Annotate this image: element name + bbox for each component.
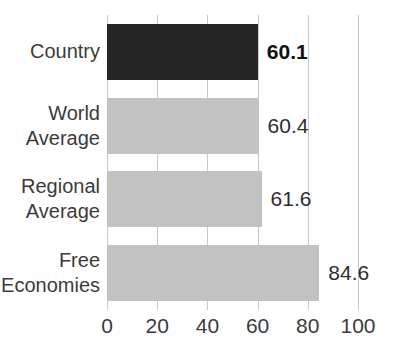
bar-value-labels: 60.160.461.684.6 <box>107 15 399 310</box>
x-tick-label: 40 <box>196 313 219 339</box>
category-label: World Average <box>0 101 100 151</box>
x-tick-label: 80 <box>296 313 319 339</box>
category-label: Country <box>0 39 100 64</box>
category-axis-labels: CountryWorld AverageRegional AverageFree… <box>0 15 100 310</box>
bar-value-label: 84.6 <box>328 262 369 283</box>
category-label: Free Economies <box>0 248 100 298</box>
category-label: Regional Average <box>0 174 100 224</box>
x-axis-tick-labels: 020406080100 <box>0 313 399 347</box>
bar-chart: CountryWorld AverageRegional AverageFree… <box>0 0 399 356</box>
bar-value-label: 60.4 <box>268 115 309 136</box>
x-tick-label: 20 <box>146 313 169 339</box>
x-tick-label: 60 <box>246 313 269 339</box>
bar-value-label: 61.6 <box>271 188 312 209</box>
x-tick-label: 0 <box>101 313 113 339</box>
bar-value-label: 60.1 <box>267 41 308 62</box>
x-tick-label: 100 <box>340 313 375 339</box>
